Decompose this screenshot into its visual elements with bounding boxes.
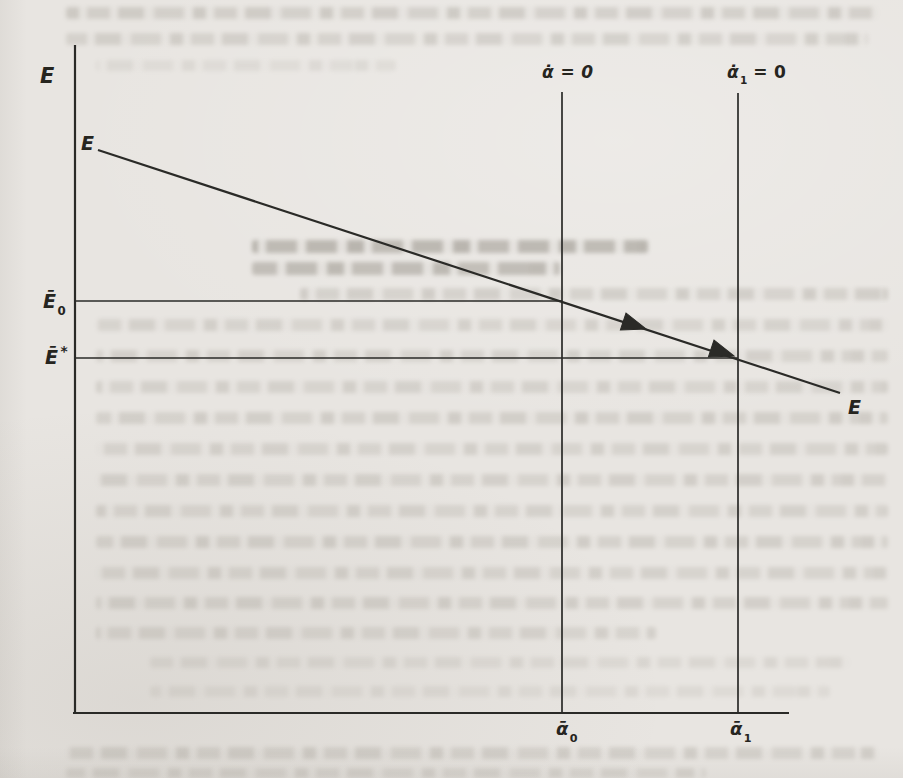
E0-level-label: Ē0 xyxy=(43,292,65,311)
motion-arrowhead xyxy=(708,340,736,365)
alpha1-tick-base: ᾱ xyxy=(730,718,743,739)
schedule-end-label: E xyxy=(848,398,861,417)
alpha1-tick-sub: 1 xyxy=(744,732,752,745)
alpha1-tick-label: ᾱ1 xyxy=(730,720,751,738)
alpha0-tick-label: ᾱ0 xyxy=(556,720,577,738)
alpha0-sub: 0 xyxy=(570,732,578,745)
alpha1-sub: 1 xyxy=(740,74,748,86)
scanned-book-page: E E E α̇ = 0 α̇1 = 0 Ē0 Ē* ᾱ0 ᾱ1 xyxy=(0,0,903,778)
phase-diagram xyxy=(0,0,903,778)
alpha0-base: ᾱ xyxy=(556,718,569,739)
Estar-base: Ē xyxy=(45,346,58,368)
E0-sub: 0 xyxy=(57,304,66,318)
alpha1-dot-zero-label: α̇1 = 0 xyxy=(727,64,786,81)
Estar-sup: * xyxy=(60,343,68,359)
y-axis-label: E xyxy=(40,66,55,87)
alpha1-eq: = 0 xyxy=(747,62,787,82)
E0-base: Ē xyxy=(43,290,56,312)
alpha-dot-zero-label: α̇ = 0 xyxy=(542,64,594,81)
alpha1-base: α̇ xyxy=(727,62,739,82)
schedule-start-label: E xyxy=(81,134,94,153)
motion-arrowhead xyxy=(620,313,648,338)
Estar-level-label: Ē* xyxy=(45,348,66,367)
